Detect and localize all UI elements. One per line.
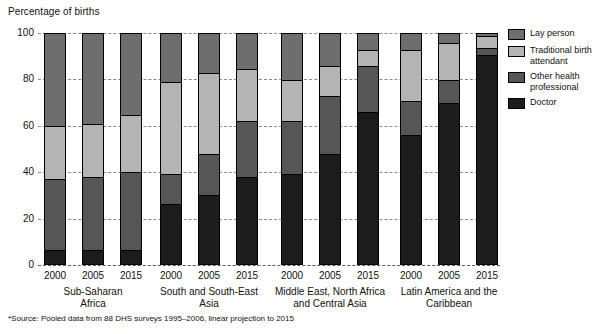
bar-segment-other-health-professional	[83, 177, 103, 251]
legend-swatch-doc	[508, 98, 525, 109]
bar-segment-lay-person	[45, 34, 65, 126]
bar-segment-other-health-professional	[237, 121, 257, 176]
legend-label: Traditional birth attendant	[530, 45, 604, 66]
y-axis-tick-label: 20	[8, 213, 34, 224]
legend-item: Other health professional	[508, 71, 604, 92]
bar-segment-doctor	[237, 177, 257, 264]
bar-segment-doctor	[83, 250, 103, 264]
y-axis-tick-label: 60	[8, 120, 34, 131]
bar-segment-traditional-birth-attendant	[83, 124, 103, 177]
legend-item: Doctor	[508, 97, 604, 109]
stacked-bar	[82, 33, 104, 265]
bar-segment-doctor	[358, 112, 378, 264]
plot-area: 020406080100	[38, 33, 498, 265]
gridline	[38, 172, 498, 173]
bar-segment-doctor	[282, 174, 302, 264]
x-axis-year-label: 2005	[192, 270, 226, 281]
stacked-bar	[319, 33, 341, 265]
bar-segment-traditional-birth-attendant	[439, 43, 459, 80]
stacked-bar	[160, 33, 182, 265]
bar-segment-lay-person	[401, 34, 421, 50]
bar-segment-lay-person	[237, 34, 257, 69]
bar-segment-other-health-professional	[401, 101, 421, 136]
bar-segment-doctor	[121, 250, 141, 264]
stacked-bar	[400, 33, 422, 265]
legend-swatch-oth	[508, 72, 525, 83]
footnote: *Source: Pooled data from 88 DHS surveys…	[8, 314, 294, 323]
bar-segment-lay-person	[83, 34, 103, 124]
stacked-bar	[44, 33, 66, 265]
y-axis-tick-label: 0	[8, 259, 34, 270]
y-axis-tick-label: 40	[8, 166, 34, 177]
x-axis-year-label: 2000	[394, 270, 428, 281]
stacked-bar	[120, 33, 142, 265]
legend-item: Lay person	[508, 28, 604, 40]
legend-label: Doctor	[530, 97, 557, 108]
y-axis-title: Percentage of births	[8, 6, 100, 17]
stacked-bar	[198, 33, 220, 265]
bar-segment-doctor	[320, 154, 340, 264]
legend-swatch-tba	[508, 46, 525, 57]
bar-segment-traditional-birth-attendant	[237, 69, 257, 122]
x-axis-year-label: 2005	[313, 270, 347, 281]
bar-segment-other-health-professional	[161, 174, 181, 204]
x-axis-year-label: 2005	[432, 270, 466, 281]
y-axis-tick-label: 80	[8, 73, 34, 84]
bar-segment-traditional-birth-attendant	[282, 80, 302, 121]
bar-segment-doctor	[199, 195, 219, 264]
bar-segment-other-health-professional	[320, 96, 340, 154]
bar-segment-other-health-professional	[282, 121, 302, 174]
gridline	[38, 79, 498, 80]
bar-segment-traditional-birth-attendant	[121, 115, 141, 173]
stacked-bar	[438, 33, 460, 265]
chart-container: Percentage of births 020406080100 200020…	[0, 0, 604, 334]
bar-segment-other-health-professional	[45, 179, 65, 250]
gridline	[38, 126, 498, 127]
bar-segment-traditional-birth-attendant	[401, 50, 421, 101]
gridline	[38, 33, 498, 34]
bar-segment-traditional-birth-attendant	[199, 73, 219, 154]
bar-segment-lay-person	[439, 34, 459, 43]
y-axis-tick-label: 100	[8, 27, 34, 38]
bar-segment-traditional-birth-attendant	[45, 126, 65, 179]
bar-segment-lay-person	[199, 34, 219, 73]
bar-segment-other-health-professional	[121, 172, 141, 250]
bar-segment-lay-person	[282, 34, 302, 80]
bar-segment-lay-person	[320, 34, 340, 66]
stacked-bar	[476, 33, 498, 265]
x-axis-year-label: 2015	[351, 270, 385, 281]
axis-baseline	[38, 265, 500, 266]
legend-item: Traditional birth attendant	[508, 45, 604, 66]
stacked-bar	[281, 33, 303, 265]
bar-segment-lay-person	[121, 34, 141, 115]
x-axis-year-label: 2000	[38, 270, 72, 281]
x-axis-year-label: 2000	[154, 270, 188, 281]
x-axis-year-label: 2000	[275, 270, 309, 281]
bar-segment-doctor	[477, 55, 497, 264]
bar-segment-doctor	[401, 135, 421, 264]
gridline	[38, 219, 498, 220]
chart-legend: Lay personTraditional birth attendantOth…	[508, 28, 604, 114]
bar-segment-doctor	[45, 250, 65, 264]
bar-segment-traditional-birth-attendant	[320, 66, 340, 96]
x-axis-year-label: 2015	[114, 270, 148, 281]
x-axis-year-label: 2015	[230, 270, 264, 281]
x-axis-group-label: Latin America and theCaribbean	[374, 286, 524, 309]
bar-segment-other-health-professional	[199, 154, 219, 195]
bar-segment-traditional-birth-attendant	[358, 50, 378, 66]
x-axis-year-label: 2015	[470, 270, 504, 281]
legend-label: Other health professional	[530, 71, 604, 92]
bar-segment-other-health-professional	[477, 48, 497, 55]
bar-segment-traditional-birth-attendant	[161, 82, 181, 174]
bar-segment-doctor	[161, 204, 181, 264]
legend-swatch-lay	[508, 29, 525, 40]
bar-segment-other-health-professional	[358, 66, 378, 112]
bar-segment-doctor	[439, 103, 459, 264]
bar-segment-other-health-professional	[439, 80, 459, 103]
x-axis-year-label: 2005	[76, 270, 110, 281]
stacked-bar	[236, 33, 258, 265]
stacked-bar	[357, 33, 379, 265]
legend-label: Lay person	[530, 28, 575, 39]
bar-segment-lay-person	[358, 34, 378, 50]
bar-segment-lay-person	[161, 34, 181, 82]
